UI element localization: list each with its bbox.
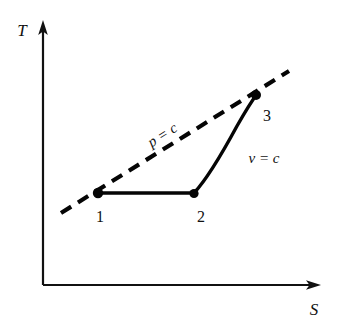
y-axis-label: T [17, 21, 28, 40]
x-axis-group [43, 280, 321, 290]
state-point-1-marker [93, 188, 103, 198]
state-point-3-marker [251, 90, 261, 100]
x-axis-label: S [310, 300, 319, 319]
ts-diagram-figure: T S 1 2 3 p = c v = c [0, 0, 348, 331]
constant-pressure-annotation: p = c [144, 119, 181, 150]
process-curve-2-to-3 [194, 94, 257, 193]
y-axis-group [38, 20, 48, 285]
state-label-1: 1 [96, 208, 104, 225]
constant-volume-annotation: v = c [249, 150, 280, 166]
state-point-2-marker [189, 189, 198, 198]
state-label-2: 2 [197, 208, 205, 225]
state-label-3: 3 [263, 107, 271, 124]
ts-diagram-canvas: T S 1 2 3 p = c v = c [0, 0, 348, 331]
